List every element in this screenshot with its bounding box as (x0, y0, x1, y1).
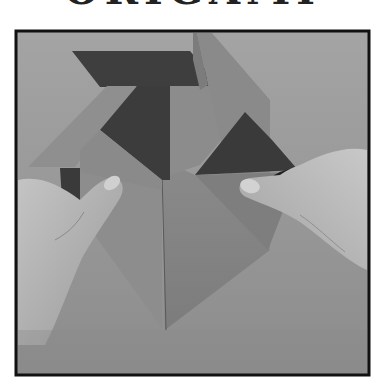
origami-photo (0, 0, 385, 387)
bottom-shade (18, 330, 367, 375)
